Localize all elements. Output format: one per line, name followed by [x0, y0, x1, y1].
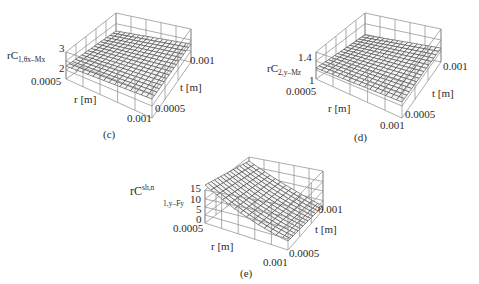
- plot-d-r-tick-0.0005: 0.0005: [286, 86, 316, 97]
- plot-d-z-axis-label: rC2,y–Mz: [267, 63, 301, 77]
- plot-c-r-tick-0.001: 0.001: [127, 113, 152, 124]
- plot-c-z-tick-3: 3: [59, 43, 65, 54]
- figure-canvas: [0, 0, 479, 284]
- plot-c-r-axis-label: r [m]: [74, 94, 96, 105]
- plot-d-t-axis-label: t [m]: [432, 88, 454, 99]
- plot-c-z-label-main: rC: [7, 49, 18, 61]
- plot-c-t-tick-0.0005: 0.0005: [155, 103, 185, 114]
- plot-d-r-tick-0.001: 0.001: [380, 120, 405, 131]
- plot-e-t-tick-0.0005: 0.0005: [289, 248, 319, 259]
- plot-e-caption: (e): [240, 267, 252, 279]
- plot-d-r-axis-label: r [m]: [328, 103, 350, 114]
- plot-c-r-tick-0.0005: 0.0005: [31, 76, 61, 87]
- plot-e-r-axis-label: r [m]: [211, 241, 233, 252]
- plot-e-r-tick-0.0005: 0.0005: [173, 223, 203, 234]
- plot-c-z-label-sub: 1,θx–Mx: [18, 55, 45, 64]
- plot-e-z-label-sub-line: 1,y–Fy: [163, 200, 184, 208]
- plot-e-t-axis-label: t [m]: [315, 224, 337, 235]
- plot-c-t-axis-label: t [m]: [180, 82, 202, 93]
- plot-d-z-label-sub: 2,y–Mz: [278, 68, 301, 77]
- plot-e-z-axis-label: rCsh,n: [130, 184, 154, 197]
- plot-e-z-label-main: rC: [130, 184, 142, 198]
- plot-c-z-tick-2: 2: [59, 63, 65, 74]
- plot-c-z-axis-label: rC1,θx–Mx: [7, 50, 45, 64]
- plot-c-caption: (c): [103, 128, 115, 140]
- plot-e-z-label-sup: sh,n: [142, 183, 154, 192]
- plot-d-z-tick-1.4: 1.4: [298, 52, 312, 63]
- plot-e-t-tick-0.001: 0.001: [318, 204, 343, 215]
- plot-d-t-tick-0.0005: 0.0005: [405, 109, 435, 120]
- plot-d-t-tick-0.001: 0.001: [443, 61, 468, 72]
- plot-e-r-tick-0.001: 0.001: [263, 257, 288, 268]
- plot-d-z-label-main: rC: [267, 62, 278, 74]
- plot-c-t-tick-0.001: 0.001: [190, 55, 215, 66]
- plot-d-caption: (d): [354, 131, 367, 143]
